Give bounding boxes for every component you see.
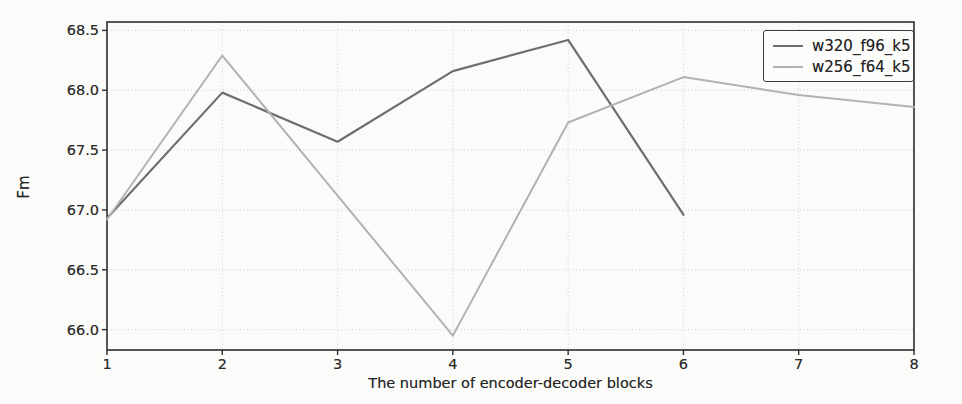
legend-line-sample-icon xyxy=(773,45,803,47)
legend-line-sample-icon xyxy=(773,66,803,68)
legend-item: w256_f64_k5 xyxy=(773,56,907,77)
series-line-w256_f64_k5 xyxy=(107,56,914,336)
x-tick-label: 7 xyxy=(786,355,812,373)
y-axis-label: Fm xyxy=(15,175,33,198)
legend-item: w320_f96_k5 xyxy=(773,35,907,56)
legend-label: w256_f64_k5 xyxy=(812,58,911,76)
y-tick-label: 66.5 xyxy=(52,261,99,279)
x-tick-label: 3 xyxy=(325,355,351,373)
x-tick-label: 2 xyxy=(209,355,235,373)
line-chart-figure: 66.066.567.067.568.068.5 12345678 Fm The… xyxy=(0,0,962,404)
x-tick-label: 4 xyxy=(440,355,466,373)
y-tick-label: 68.5 xyxy=(52,21,99,39)
y-tick-label: 67.0 xyxy=(52,201,99,219)
legend-label: w320_f96_k5 xyxy=(812,37,911,55)
y-tick-label: 67.5 xyxy=(52,141,99,159)
x-tick-label: 8 xyxy=(901,355,927,373)
x-tick-label: 1 xyxy=(94,355,120,373)
series-line-w320_f96_k5 xyxy=(107,40,683,218)
x-tick-label: 5 xyxy=(555,355,581,373)
y-tick-label: 68.0 xyxy=(52,81,99,99)
y-tick-label: 66.0 xyxy=(52,321,99,339)
legend: w320_f96_k5 w256_f64_k5 xyxy=(763,30,914,82)
x-axis-label: The number of encoder-decoder blocks xyxy=(107,375,914,391)
x-tick-label: 6 xyxy=(670,355,696,373)
